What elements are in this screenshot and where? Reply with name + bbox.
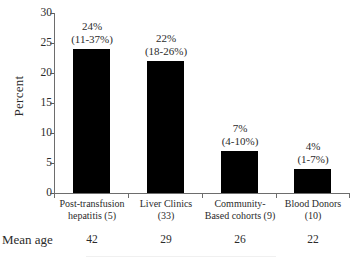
x-category-label-blood-donors: Blood Donors (10) — [267, 198, 354, 221]
y-axis-title: Percent — [11, 46, 27, 146]
bar-value-ci: (1-7%) — [267, 153, 354, 166]
bar-value-percent: 22% — [120, 32, 212, 45]
bottom-divider — [86, 256, 276, 257]
bar-value-ci: (18-26%) — [120, 45, 212, 58]
bar-blood-donors — [294, 169, 331, 193]
bar-value-percent: 7% — [194, 122, 286, 135]
bar-liver-clinics — [147, 61, 184, 193]
bar-value-label-liver-clinics: 22% (18-26%) — [120, 32, 212, 57]
bar-chart: Percent 30 25 20 15 10 5 0 24% (11-37%) — [0, 0, 354, 260]
category-line-1: Blood Donors — [267, 198, 354, 210]
bar-value-percent: 24% — [46, 20, 138, 33]
y-tick-label: 30 — [30, 7, 52, 19]
bar-value-percent: 4% — [267, 140, 354, 153]
y-tick-label: 0 — [30, 187, 52, 199]
y-tick-label: 15 — [30, 97, 52, 109]
y-tick-label: 20 — [30, 67, 52, 79]
bar-value-label-blood-donors: 4% (1-7%) — [267, 140, 354, 165]
bar-community-based-cohorts — [221, 151, 258, 193]
category-line-2: (10) — [267, 210, 354, 222]
mean-age-value-blood-donors: 22 — [267, 233, 354, 245]
y-tick-label: 10 — [30, 127, 52, 139]
y-tick-label: 5 — [30, 157, 52, 169]
bar-post-transfusion-hepatitis — [73, 49, 110, 193]
